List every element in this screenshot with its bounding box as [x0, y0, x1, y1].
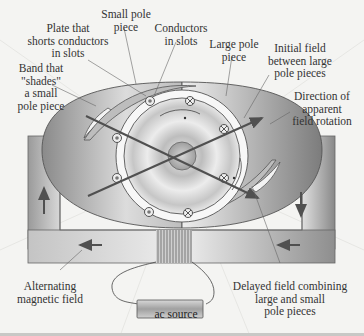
label-delayed: Delayed field combining large and small … [224, 280, 356, 318]
conductor-dot [113, 134, 122, 143]
label-band: Band that "shades" a small pole piece [10, 62, 72, 112]
label-small-pole: Small pole piece [94, 8, 158, 33]
label-large-pole: Large pole piece [204, 38, 264, 63]
coil [156, 230, 192, 263]
label-initial-field: Initial field between large pole pieces [256, 42, 344, 80]
conductor-dot [145, 208, 154, 217]
label-alternating: Alternating magnetic field [8, 280, 92, 305]
label-ac-source: ac source [136, 306, 216, 322]
label-conductors: Conductors in slots [150, 22, 212, 47]
label-direction: Direction of apparent field rotation [282, 90, 362, 128]
conductor-cross [220, 125, 229, 134]
conductor-cross [186, 97, 195, 106]
conductor-cross [184, 209, 193, 218]
conductor-dot [146, 97, 155, 106]
diagram: Plate that shorts conductors in slots Sm… [0, 0, 364, 336]
lead-wire-right [192, 262, 214, 304]
